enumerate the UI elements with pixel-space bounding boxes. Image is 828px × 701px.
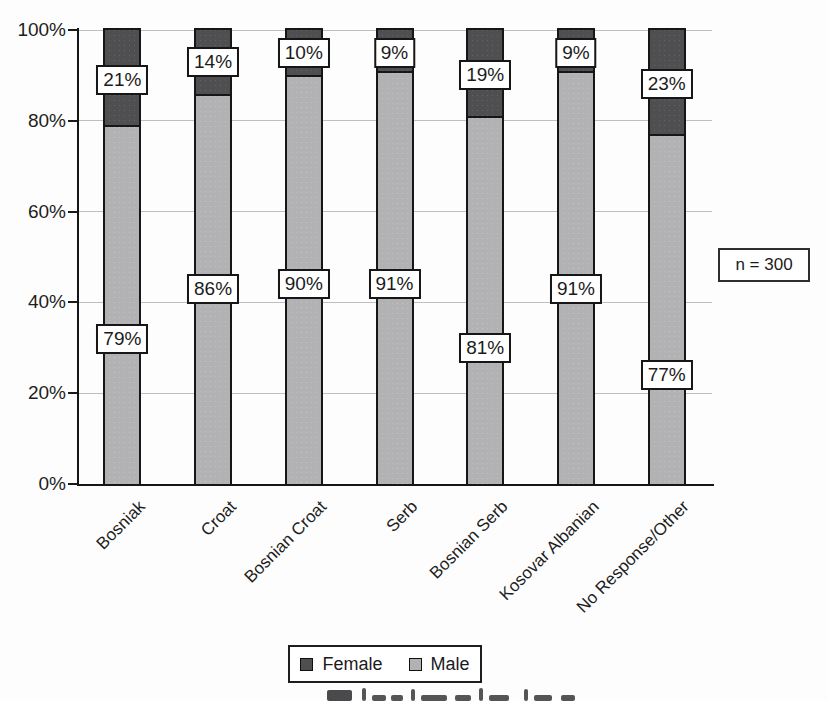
x-axis-label: Bosniak: [93, 497, 150, 554]
data-label-female: 9%: [374, 38, 415, 68]
data-label-male: 91%: [550, 274, 602, 304]
x-axis-label: Bosnian Croat: [241, 497, 331, 587]
caption-glyph-fragment: [479, 688, 483, 701]
data-label-male: 81%: [459, 333, 511, 363]
bar-bosniak: [103, 28, 141, 484]
y-tick-mark: [68, 29, 77, 31]
sample-size-annotation: n = 300: [718, 248, 810, 282]
caption-glyph-fragment: [372, 695, 386, 701]
data-label-female: 23%: [641, 69, 693, 99]
data-label-male: 91%: [368, 269, 420, 299]
bar-bosnian-croat: [285, 28, 323, 484]
stacked-bar-chart-figure: 21%79%14%86%10%90%9%91%19%81%9%91%23%77%…: [0, 0, 828, 701]
data-label-male: 79%: [96, 324, 148, 354]
bar-segment-male: [105, 125, 139, 484]
y-tick-mark: [68, 301, 77, 303]
caption-glyph-fragment: [362, 688, 366, 701]
y-tick-mark: [68, 392, 77, 394]
x-axis-label: Serb: [382, 497, 422, 537]
y-tick-label: 40%: [0, 290, 66, 314]
bar-segment-male: [468, 116, 502, 484]
x-axis-label: Bosnian Serb: [426, 497, 512, 583]
bar-segment-male: [650, 134, 684, 484]
caption-glyph-fragment: [391, 695, 403, 701]
y-tick-label: 20%: [0, 381, 66, 405]
data-label-male: 86%: [187, 274, 239, 304]
caption-glyph-fragment: [524, 689, 528, 701]
data-label-female: 14%: [187, 47, 239, 77]
caption-glyph-fragment: [421, 695, 447, 701]
bar-serb: [376, 28, 414, 484]
y-tick-label: 100%: [0, 18, 66, 42]
legend-swatch-female-icon: [300, 658, 313, 671]
data-label-male: 90%: [278, 269, 330, 299]
x-axis-label: Croat: [197, 497, 241, 541]
bar-croat: [194, 28, 232, 484]
caption-glyph-fragment: [327, 690, 352, 701]
legend-label-male: Male: [431, 654, 470, 675]
bar-bosnian-serb: [466, 28, 504, 484]
y-tick-label: 80%: [0, 109, 66, 133]
y-tick-label: 60%: [0, 200, 66, 224]
cutoff-caption-fragment: [327, 688, 587, 701]
caption-glyph-fragment: [489, 695, 509, 701]
caption-glyph-fragment: [534, 695, 552, 701]
data-label-female: 19%: [459, 60, 511, 90]
y-tick-mark: [68, 483, 77, 485]
legend-item-male: Male: [409, 654, 470, 675]
legend-label-female: Female: [322, 654, 382, 675]
y-tick-label: 0%: [0, 472, 66, 496]
data-label-female: 9%: [555, 38, 596, 68]
data-label-male: 77%: [641, 360, 693, 390]
bar-kosovar-albanian: [557, 28, 595, 484]
legend-swatch-male-icon: [409, 658, 422, 671]
y-tick-mark: [68, 211, 77, 213]
caption-glyph-fragment: [411, 689, 415, 701]
legend-item-female: Female: [300, 654, 382, 675]
data-label-female: 21%: [96, 65, 148, 95]
caption-glyph-fragment: [561, 695, 575, 701]
legend: FemaleMale: [288, 645, 482, 683]
y-axis-line: [77, 28, 79, 486]
y-tick-mark: [68, 120, 77, 122]
caption-glyph-fragment: [455, 695, 471, 701]
data-label-female: 10%: [278, 38, 330, 68]
x-axis-line: [77, 484, 714, 486]
